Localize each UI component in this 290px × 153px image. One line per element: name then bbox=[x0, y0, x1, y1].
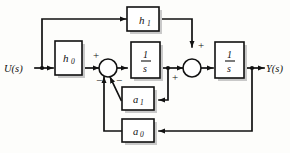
integrator-block-2-numerator: 1 bbox=[227, 49, 232, 60]
feedback-gain-block-a1-label: a bbox=[133, 94, 138, 105]
sign-plus-integrator1-input: + bbox=[172, 71, 178, 83]
integrator-block-1-numerator: 1 bbox=[143, 49, 148, 60]
gain-block-h0-label: h bbox=[63, 52, 69, 64]
feedback-gain-block-a0[interactable]: a 0 bbox=[122, 119, 157, 145]
output-label: Y(s) bbox=[266, 63, 283, 75]
sign-minus-a1-input: − bbox=[116, 74, 122, 86]
gain-block-h1-label: h bbox=[139, 14, 145, 26]
junction-dot-input bbox=[40, 66, 44, 70]
summing-junction-2[interactable]: + + bbox=[172, 39, 204, 83]
sign-minus-a0-input: − bbox=[96, 74, 102, 86]
block-diagram-figure: h 1 h 0 1 s 1 s a bbox=[0, 0, 290, 153]
feedback-gain-block-a1[interactable]: a 1 bbox=[122, 87, 157, 113]
wire-h1-to-sum2 bbox=[161, 19, 192, 47]
feedback-gain-block-a0-label: a bbox=[133, 126, 138, 137]
summing-junction-2-circle bbox=[183, 59, 201, 77]
block-diagram-canvas: h 1 h 0 1 s 1 s a bbox=[0, 0, 290, 153]
junction-dot-output bbox=[250, 66, 254, 70]
integrator-block-1-denominator: s bbox=[143, 63, 147, 74]
gain-block-h0[interactable]: h 0 bbox=[55, 41, 85, 78]
integrator-block-2-denominator: s bbox=[227, 63, 231, 74]
feedback-gain-block-a1-subscript: 1 bbox=[140, 98, 144, 107]
sign-plus-h0-input: + bbox=[93, 49, 99, 61]
gain-block-h1[interactable]: h 1 bbox=[127, 7, 162, 34]
integrator-block-1[interactable]: 1 s bbox=[131, 42, 163, 81]
junction-dot-integrator1 bbox=[166, 66, 170, 70]
feedback-gain-block-a0-subscript: 0 bbox=[140, 130, 144, 139]
h0-box bbox=[55, 41, 82, 75]
gain-block-h0-subscript: 0 bbox=[71, 57, 75, 66]
integrator-block-2[interactable]: 1 s bbox=[215, 42, 247, 81]
gain-block-h1-subscript: 1 bbox=[147, 19, 151, 28]
sign-plus-h1-input: + bbox=[198, 39, 204, 51]
input-label: U(s) bbox=[4, 63, 23, 75]
